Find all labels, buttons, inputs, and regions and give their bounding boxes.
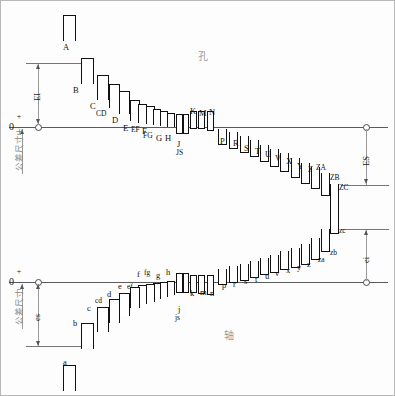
band-letter-EF: EF	[131, 126, 140, 134]
band-letter-h: h	[166, 268, 170, 277]
tolerance-band	[63, 15, 76, 41]
tolerance-band	[160, 282, 168, 297]
band-letter-zb: zb	[330, 249, 337, 257]
band-letter-ZA: ZA	[316, 164, 326, 172]
band-letter-s: s	[244, 277, 247, 286]
es-lower-dimension-bottom-tick	[26, 346, 82, 347]
band-letter-FG: FG	[143, 132, 153, 140]
tolerance-band	[109, 299, 120, 323]
band-letter-E: E	[123, 124, 128, 133]
band-hatch	[110, 85, 119, 108]
band-letter-k: k	[190, 289, 194, 298]
ei-right-label: ei	[362, 257, 371, 263]
band-letter-u: u	[265, 272, 269, 281]
ei-arrow-down	[36, 119, 40, 124]
band-letter-g: g	[156, 271, 160, 280]
tolerance-band	[81, 58, 94, 84]
lower-plus-sign: +	[15, 268, 23, 276]
band-letter-P: P	[220, 137, 225, 146]
band-letter-cd: cd	[95, 297, 102, 305]
band-hatch	[331, 184, 338, 209]
band-hatch	[82, 324, 93, 349]
es-lower-arrow-up	[36, 284, 40, 289]
tolerance-band	[330, 184, 339, 210]
band-hatch	[131, 288, 139, 308]
band-letter-M: M	[199, 109, 207, 118]
tolerance-band	[183, 114, 189, 134]
band-letter-G: G	[156, 134, 162, 143]
band-hatch	[177, 115, 182, 133]
band-letter-y: y	[297, 263, 301, 272]
band-letter-j: j	[178, 305, 180, 314]
tolerance-band	[119, 293, 130, 316]
es-label: ES	[362, 156, 371, 166]
band-letter-js: js	[175, 314, 180, 322]
tolerance-band	[321, 173, 330, 196]
band-letter-JS: JS	[176, 149, 183, 157]
tolerance-band	[183, 273, 189, 293]
lower-zero-label: 0	[9, 277, 14, 287]
ei-right-arrow-up	[364, 230, 368, 235]
band-letter-H: H	[165, 134, 171, 143]
band-letter-A: A	[63, 43, 69, 52]
band-hatch	[120, 294, 129, 316]
band-letter-z: z	[307, 260, 311, 269]
ei-dimension-top-tick	[26, 63, 82, 64]
upper-plus-sign: +	[15, 113, 23, 121]
band-letter-p: p	[222, 281, 226, 290]
shaft-region-label: 轴	[224, 331, 234, 341]
band-hatch	[322, 173, 329, 195]
band-hatch	[322, 229, 329, 251]
tolerance-band	[330, 208, 339, 234]
band-hatch	[168, 114, 174, 127]
band-hatch	[120, 92, 129, 114]
band-letter-n: n	[210, 289, 214, 298]
es-lower-arrow-down	[36, 341, 40, 346]
band-hatch	[147, 285, 154, 302]
band-letter-CD: CD	[96, 110, 106, 118]
tolerance-band	[176, 273, 183, 293]
band-letter-v: v	[275, 269, 279, 278]
band-hatch	[110, 300, 119, 323]
band-letter-B: B	[73, 86, 79, 95]
upper-zero-origin-marker	[35, 124, 42, 131]
band-hatch	[98, 76, 108, 100]
band-letter-b: b	[73, 319, 77, 328]
lower-axis-caption: 公差尺寸	[15, 289, 24, 325]
band-hatch	[184, 115, 188, 133]
tolerance-band	[167, 281, 175, 295]
band-hatch	[161, 283, 167, 297]
band-hatch	[82, 59, 93, 84]
tolerance-band	[97, 307, 109, 332]
tolerance-band	[167, 113, 175, 127]
band-hatch	[139, 286, 146, 304]
es-lower-label: es	[33, 314, 42, 321]
tolerance-band	[119, 91, 130, 114]
ei-label: EI	[33, 93, 42, 101]
band-hatch	[177, 274, 182, 292]
band-letter-N: N	[209, 108, 215, 117]
band-letter-S: S	[244, 144, 249, 153]
ei-arrow-up	[36, 64, 40, 69]
band-letter-t: t	[255, 275, 257, 284]
band-letter-m: m	[200, 288, 207, 297]
band-letter-fg: fg	[144, 269, 150, 277]
band-hatch	[184, 274, 188, 292]
band-letter-c: c	[87, 304, 91, 313]
es-arrow-down	[364, 179, 368, 184]
band-letter-a: a	[63, 358, 67, 367]
ei-right-dimension-vertical	[366, 229, 367, 281]
band-hatch	[64, 366, 75, 391]
band-letter-D: D	[112, 116, 118, 125]
deviation-chart-canvas: 0 + − EI 公差尺寸+ ES 孔 0 + − es 公差尺寸 ei 轴 A…	[0, 0, 395, 396]
tolerance-band	[176, 114, 183, 134]
band-hatch	[98, 308, 108, 332]
band-letter-K: K	[190, 107, 196, 116]
band-letter-f: f	[137, 270, 140, 279]
band-letter-e: e	[118, 282, 122, 291]
tolerance-band	[97, 75, 109, 100]
tolerance-band	[130, 287, 140, 308]
tolerance-band	[146, 284, 155, 302]
band-hatch	[168, 282, 174, 295]
hole-region-label: 孔	[198, 52, 208, 62]
